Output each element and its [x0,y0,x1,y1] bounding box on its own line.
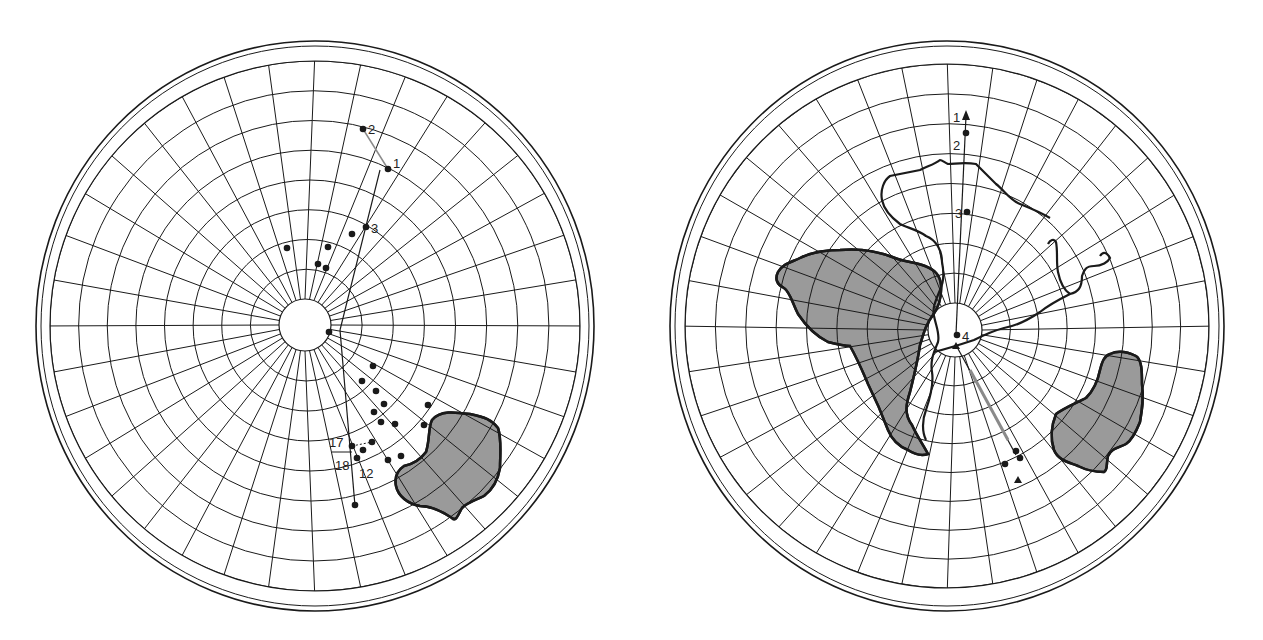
left-polar-projection: 2 1 3 17 18 12 [36,41,594,611]
right-graticule [675,54,1219,598]
right-label-2: 2 [953,138,960,153]
left-graticule [40,51,590,601]
polar-wander-figure: 2 1 3 17 18 12 [0,0,1263,640]
left-label-2: 2 [368,122,375,137]
right-label-3: 3 [955,206,962,221]
right-label-1: 1 [953,110,960,125]
right-arrowhead-1 [962,110,970,120]
right-label-4: 4 [962,329,969,344]
left-path-line-2-1 [363,129,388,169]
left-label-17: 17 [329,435,343,450]
triangle-marker [1014,476,1022,483]
left-label-1: 1 [393,156,400,171]
left-label-18: 18 [335,458,349,473]
left-label-12: 12 [359,466,373,481]
right-polar-projection: 1 2 3 4 [670,41,1224,611]
right-pole-points [954,130,1024,468]
left-label-3: 3 [371,221,378,236]
